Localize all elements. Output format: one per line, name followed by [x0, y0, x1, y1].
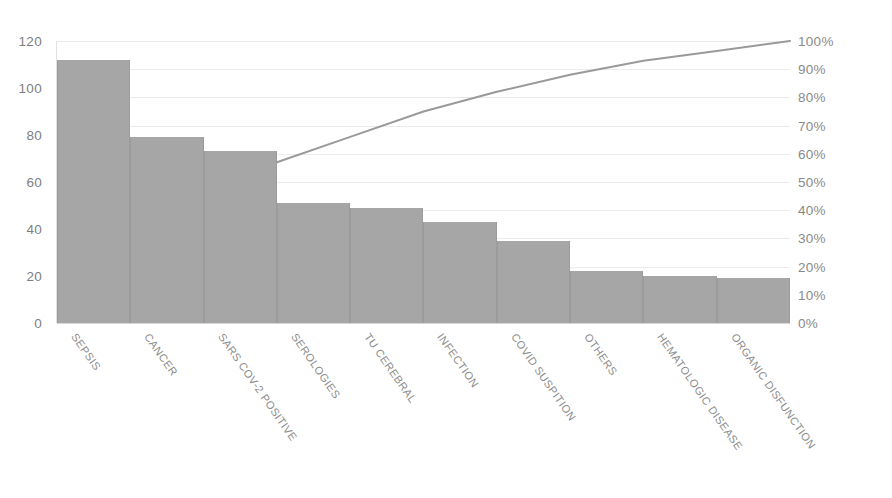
- pareto-chart: 020406080100120 0%10%20%30%40%50%60%70%8…: [0, 0, 892, 498]
- bar: [204, 151, 277, 323]
- category-axis-label: SARS COV-2 POSITIVE: [216, 331, 299, 443]
- category-axis-line: [57, 323, 790, 324]
- left-value-axis: 020406080100120: [0, 41, 50, 323]
- left-axis-tick-label: 100: [19, 81, 42, 96]
- bar: [423, 222, 496, 323]
- right-axis-tick-label: 10%: [798, 287, 826, 302]
- left-axis-tick-label: 60: [26, 175, 42, 190]
- category-axis-label: TU CEREBRAL: [362, 331, 419, 405]
- right-axis-tick-label: 30%: [798, 231, 826, 246]
- category-axis-label: SEROLOGIES: [289, 331, 343, 401]
- bar-series: [57, 41, 790, 323]
- category-axis: SEPSISCANCERSARS COV-2 POSITIVESEROLOGIE…: [57, 327, 790, 492]
- right-axis-tick-label: 50%: [798, 175, 826, 190]
- right-axis-tick-label: 0%: [798, 316, 818, 331]
- bar: [717, 278, 790, 323]
- bar: [497, 241, 570, 323]
- left-axis-tick-label: 20: [26, 269, 42, 284]
- category-axis-label: ORGANIC DISFUNCTION: [729, 331, 818, 451]
- category-axis-label: SEPSIS: [69, 331, 103, 373]
- category-axis-label: COVID SUSPITION: [509, 331, 578, 423]
- category-axis-label: HEMATOLOGIC DISEASE: [656, 331, 746, 452]
- category-axis-label: CANCER: [142, 331, 180, 378]
- right-axis-tick-label: 100%: [798, 34, 834, 49]
- bar: [350, 208, 423, 323]
- right-axis-tick-label: 20%: [798, 259, 826, 274]
- bar: [570, 271, 643, 323]
- left-axis-tick-label: 120: [19, 34, 42, 49]
- right-axis-tick-label: 80%: [798, 90, 826, 105]
- right-axis-tick-label: 90%: [798, 62, 826, 77]
- left-axis-tick-label: 80: [26, 128, 42, 143]
- bar: [277, 203, 350, 323]
- right-percent-axis: 0%10%20%30%40%50%60%70%80%90%100%: [798, 41, 878, 323]
- bar: [57, 60, 130, 323]
- left-axis-tick-label: 0: [34, 316, 42, 331]
- right-axis-tick-label: 60%: [798, 146, 826, 161]
- right-axis-tick-label: 70%: [798, 118, 826, 133]
- category-axis-label: INFECTION: [436, 331, 482, 390]
- left-axis-tick-label: 40: [26, 222, 42, 237]
- plot-area: [57, 41, 790, 323]
- category-axis-label: OTHERS: [582, 331, 620, 378]
- bar: [130, 137, 203, 323]
- bar: [643, 276, 716, 323]
- right-axis-tick-label: 40%: [798, 203, 826, 218]
